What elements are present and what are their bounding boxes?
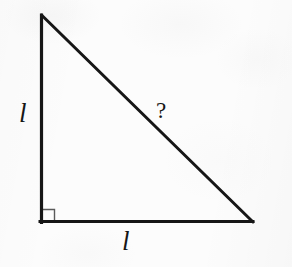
label-leg-horizontal: l bbox=[122, 228, 130, 255]
hypotenuse-line bbox=[42, 15, 254, 222]
diagram-canvas: l l ? bbox=[0, 0, 292, 267]
label-leg-vertical: l bbox=[19, 100, 27, 127]
label-hypotenuse-unknown: ? bbox=[156, 99, 166, 122]
triangle-figure bbox=[0, 0, 292, 267]
